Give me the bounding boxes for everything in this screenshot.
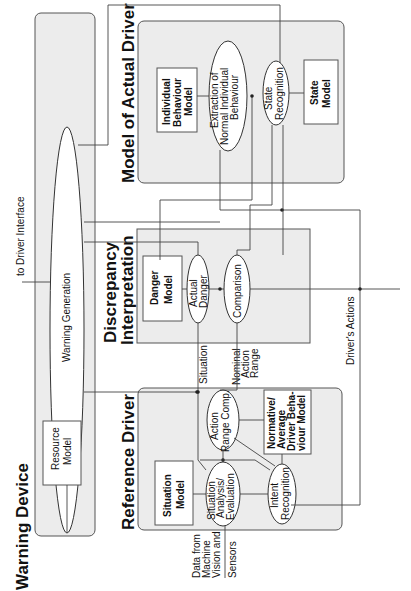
reference-driver-title: Reference Driver: [119, 394, 138, 530]
svg-text:State: State: [263, 86, 274, 110]
svg-text:Danger: Danger: [198, 275, 209, 308]
svg-text:Range Comp.: Range Comp.: [220, 390, 231, 452]
svg-text:Individual: Individual: [161, 78, 172, 125]
svg-text:Recognition: Recognition: [274, 67, 285, 120]
nominal-label-3: Range: [249, 348, 260, 378]
warning-generation-label: Warning Generation: [61, 273, 72, 362]
svg-text:Danger: Danger: [149, 270, 160, 305]
svg-text:Behaviour: Behaviour: [172, 78, 183, 127]
svg-text:viour Model: viour Model: [296, 395, 307, 451]
svg-text:Behaviour: Behaviour: [229, 74, 240, 120]
svg-text:Intent: Intent: [269, 483, 280, 508]
warning-device-title: Warning Device: [13, 463, 32, 590]
svg-text:Model: Model: [175, 480, 186, 509]
svg-text:Situation: Situation: [162, 474, 173, 517]
svg-text:State: State: [309, 80, 320, 105]
svg-text:Model: Model: [183, 87, 194, 116]
svg-text:Model: Model: [321, 79, 332, 108]
drivers-actions-label: Driver's Actions: [345, 296, 356, 365]
driver-warning-system-diagram: Warning Device Warning Generation Resour…: [0, 0, 411, 591]
svg-text:Recognition: Recognition: [280, 467, 291, 520]
situation-model-box: [155, 461, 193, 525]
svg-text:Warning Device: Warning Device: [13, 463, 32, 590]
to-driver-interface-label: to Driver Interface: [15, 196, 26, 276]
svg-text:Evaluation: Evaluation: [225, 473, 236, 520]
discrepancy-title-2: Interpretation: [118, 235, 137, 345]
resource-model-label-1: Resource: [50, 427, 61, 470]
svg-text:Action: Action: [209, 412, 220, 440]
actual-driver-title: Model of Actual Driver: [119, 3, 138, 183]
svg-text:Comparison: Comparison: [232, 264, 243, 318]
data-input-label-3: Vision and: [211, 531, 222, 578]
situation-edge-label: Situation: [198, 345, 209, 384]
data-input-label-4: Sensors: [227, 541, 238, 578]
svg-text:Model: Model: [163, 275, 174, 304]
resource-model-label-2: Model: [62, 438, 73, 465]
